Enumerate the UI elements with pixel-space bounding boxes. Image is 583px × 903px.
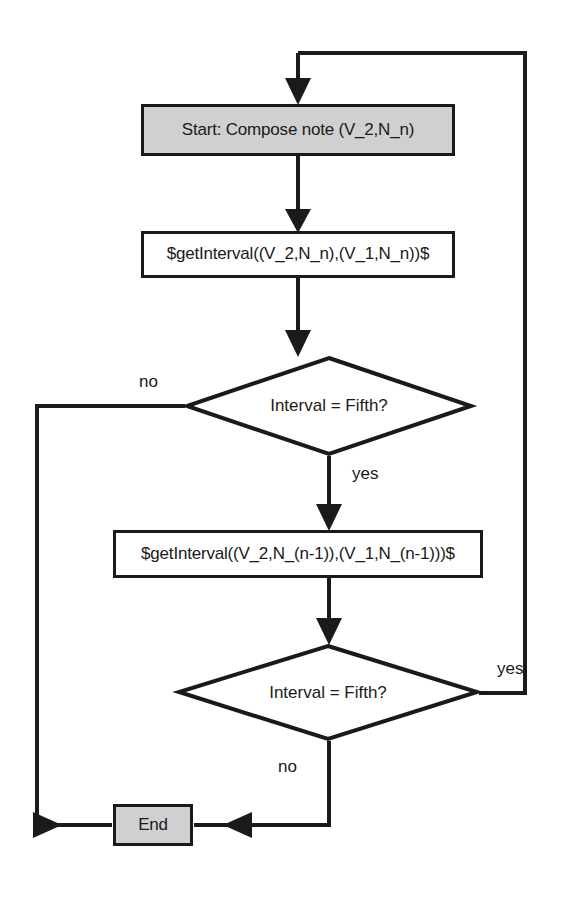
flowchart-canvas: Start: Compose note (V_2,N_n) $getInterv…: [0, 0, 583, 903]
edge-label-decision2-yes: yes: [497, 659, 523, 679]
node-process-2[interactable]: $getInterval((V_2,N_(n-1)),(V_1,N_(n-1))…: [113, 530, 483, 578]
node-process-2-label: $getInterval((V_2,N_(n-1)),(V_1,N_(n-1))…: [141, 545, 455, 564]
edge-decision1-no-to-end: [33, 406, 185, 838]
node-start-label: Start: Compose note (V_2,N_n): [182, 121, 414, 140]
node-start[interactable]: Start: Compose note (V_2,N_n): [141, 104, 455, 156]
edge-label-decision2-no: no: [278, 757, 297, 777]
node-process-1-label: $getInterval((V_2,N_n),(V_1,N_n))$: [167, 245, 430, 264]
node-end-label: End: [138, 816, 168, 835]
node-decision-2-label: Interval = Fifth?: [177, 644, 479, 741]
node-decision-1-label: Interval = Fifth?: [185, 356, 473, 456]
edge-start-to-process1: [285, 156, 311, 233]
edge-label-decision1-yes: yes: [352, 464, 378, 484]
node-end[interactable]: End: [113, 804, 193, 846]
edge-process1-to-decision1: [285, 278, 311, 357]
node-decision-2[interactable]: Interval = Fifth?: [177, 644, 479, 741]
edge-process2-to-decision2: [316, 578, 342, 645]
node-decision-1[interactable]: Interval = Fifth?: [185, 356, 473, 456]
node-process-1[interactable]: $getInterval((V_2,N_n),(V_1,N_n))$: [141, 231, 455, 278]
edge-decision1-yes-to-process2: [316, 456, 342, 531]
edge-decision2-no-to-end: [194, 741, 329, 838]
edge-label-decision1-no: no: [139, 372, 158, 392]
